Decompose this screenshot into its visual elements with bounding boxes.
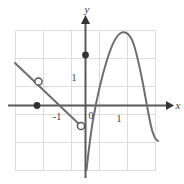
x-axis — [8, 101, 174, 110]
x-axis-arrow-icon — [166, 101, 174, 110]
graph-canvas: -1 0 1 1 y x — [0, 0, 184, 184]
curve — [87, 32, 159, 170]
filled-dot-marker — [82, 52, 89, 59]
x-tick-label-1: 1 — [117, 113, 122, 124]
open-circle-marker — [77, 122, 84, 129]
x-tick-label-neg1: -1 — [53, 111, 61, 122]
y-tick-label-1: 1 — [72, 72, 77, 83]
y-axis-label: y — [84, 3, 90, 15]
x-tick-label-0: 0 — [89, 110, 94, 121]
graph-figure: -1 0 1 1 y x — [0, 0, 184, 184]
x-axis-label: x — [175, 99, 181, 111]
filled-dot-marker — [34, 102, 41, 109]
open-circle-marker — [35, 78, 42, 85]
y-axis-arrow-icon — [81, 15, 90, 24]
